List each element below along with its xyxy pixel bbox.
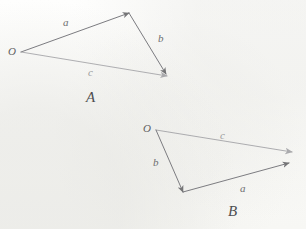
figure-page: O a b c A O c b a B bbox=[0, 0, 306, 229]
vector-b-line-figure-b bbox=[156, 130, 183, 192]
figure-caption-a: A bbox=[86, 90, 95, 105]
vector-label-a-figure-b: a bbox=[240, 183, 246, 194]
vector-diagram-canvas bbox=[0, 0, 306, 229]
vector-a-line-figure-b bbox=[183, 163, 289, 192]
origin-label-figure-b: O bbox=[143, 123, 151, 134]
figure-caption-b: B bbox=[228, 204, 237, 219]
vector-label-b-figure-a: b bbox=[158, 33, 164, 44]
figure-a-group bbox=[21, 13, 167, 76]
vector-label-c-figure-a: c bbox=[88, 67, 93, 78]
origin-label-figure-a: O bbox=[8, 46, 16, 57]
vector-label-b-figure-b: b bbox=[153, 157, 159, 168]
vector-c-line-figure-a bbox=[21, 52, 167, 76]
vector-label-a-figure-a: a bbox=[63, 17, 69, 28]
vector-a-line-figure-a bbox=[21, 13, 129, 52]
vector-label-c-figure-b: c bbox=[220, 130, 225, 141]
